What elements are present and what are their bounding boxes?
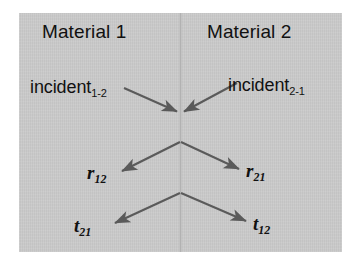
figure-root: Material 1 Material 2 incident1-2 incide… (0, 0, 358, 263)
t-21-label-subscript: 21 (79, 225, 91, 239)
t-21-label: t21 (74, 216, 91, 235)
incident-2-1-label-base: incident (228, 75, 289, 95)
t-21-arrow (115, 193, 180, 223)
incident-1-2-label: incident1-2 (30, 78, 107, 96)
t-12-label-subscript: 12 (258, 223, 270, 237)
incident-1-2-arrow (124, 88, 177, 112)
material-2-title: Material 2 (207, 22, 291, 41)
incident-2-1-label-subscript: 2-1 (289, 85, 304, 97)
r-21-label-subscript: 21 (253, 170, 265, 184)
t-12-arrow (181, 193, 246, 221)
t-12-label: t12 (253, 214, 270, 233)
r-12-label: r12 (87, 163, 106, 182)
r-21-label: r21 (246, 161, 265, 180)
r-12-arrow (122, 142, 180, 171)
material-1-title: Material 1 (42, 22, 126, 41)
incident-1-2-label-base: incident (30, 77, 91, 97)
r-12-label-subscript: 12 (94, 172, 106, 186)
incident-2-1-label: incident2-1 (228, 76, 305, 94)
incident-1-2-label-subscript: 1-2 (91, 87, 106, 99)
r-21-arrow (181, 142, 239, 169)
